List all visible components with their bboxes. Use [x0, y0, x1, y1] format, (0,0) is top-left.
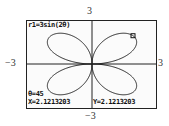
- y-min-label: −3: [85, 111, 96, 121]
- x-min-label: −3: [5, 58, 16, 68]
- x-max-label: 3: [158, 58, 163, 68]
- polar-rose-plot: [27, 21, 156, 108]
- y-readout: Y=2.1213203: [93, 99, 135, 106]
- x-readout: X=2.1213203: [28, 99, 70, 106]
- calculator-graph-screen: r1=3sin(2θ) θ=45 X=2.1213203 Y=2.1213203: [26, 20, 157, 109]
- theta-readout: θ=45: [28, 91, 43, 98]
- y-max-label: 3: [87, 6, 92, 16]
- equation-label: r1=3sin(2θ): [28, 22, 71, 29]
